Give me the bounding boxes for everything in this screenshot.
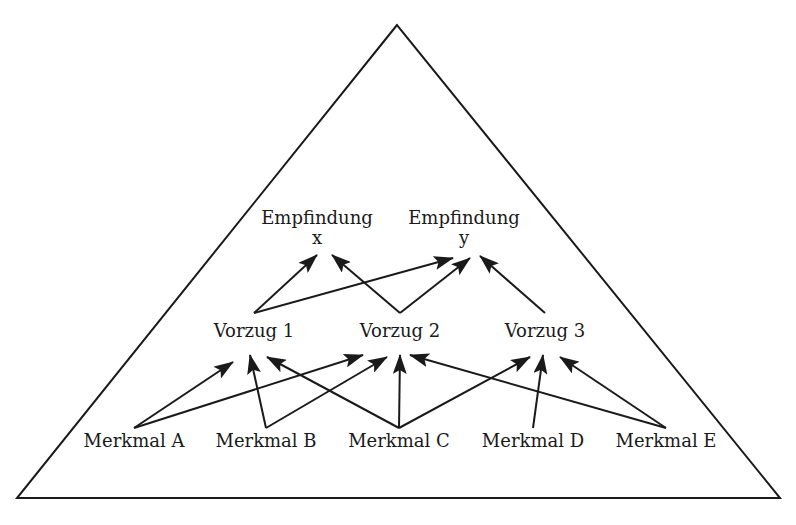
arrow-mb-to-v1	[250, 355, 266, 428]
arrow-v3-to-ey	[480, 256, 545, 313]
node-merkmal-e: Merkmal E	[615, 431, 716, 451]
node-sublabel: x	[261, 228, 373, 248]
node-merkmal-b: Merkmal B	[215, 431, 316, 451]
arrow-me-to-v2	[410, 355, 666, 428]
node-label: Empfindung	[261, 208, 373, 228]
node-vorzug-3: Vorzug 3	[505, 321, 586, 341]
node-empfindung-x: Empfindung x	[261, 208, 373, 248]
arrow-v2-to-ex	[332, 255, 400, 313]
node-vorzug-1: Vorzug 1	[214, 321, 295, 341]
arrow-v2-to-ey	[400, 258, 470, 313]
node-empfindung-y: Empfindung y	[408, 208, 520, 248]
arrow-mc-to-v1	[267, 357, 399, 428]
node-label: Empfindung	[408, 208, 520, 228]
node-merkmal-a: Merkmal A	[84, 431, 185, 451]
edges-group	[134, 255, 666, 428]
arrow-mc-to-v3	[399, 357, 530, 428]
node-merkmal-c: Merkmal C	[348, 431, 450, 451]
node-merkmal-d: Merkmal D	[482, 431, 584, 451]
arrow-ma-to-v1	[134, 362, 233, 428]
node-sublabel: y	[408, 228, 520, 248]
node-vorzug-2: Vorzug 2	[360, 321, 441, 341]
hierarchy-diagram: Empfindung x Empfindung y Vorzug 1 Vorzu…	[0, 0, 796, 525]
arrow-me-to-v3	[560, 357, 666, 428]
arrow-mc-to-v2	[399, 355, 400, 428]
